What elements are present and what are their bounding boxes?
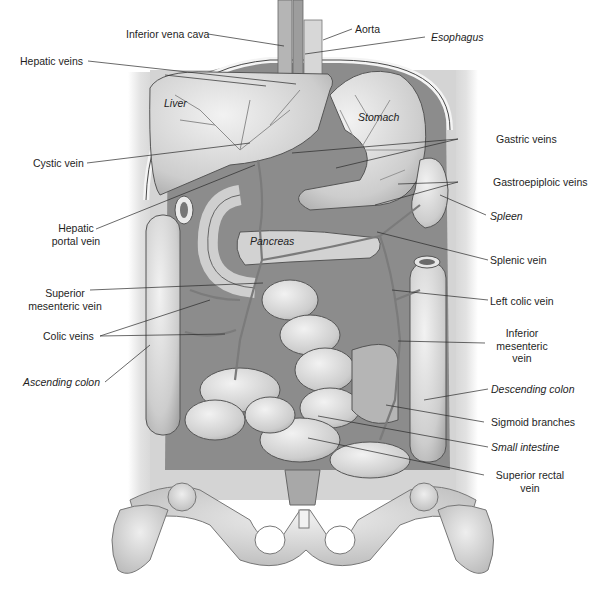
label-esophagus: Esophagus	[431, 31, 484, 44]
label-gastroepiploic-veins: Gastroepiploic veins	[493, 176, 588, 189]
descending-colon	[410, 256, 446, 462]
label-superior-mesenteric-vein-line2: mesenteric vein	[25, 300, 105, 313]
label-splenic-vein: Splenic vein	[490, 254, 547, 267]
label-small-intestine: Small intestine	[491, 441, 559, 454]
liver-label: Liver	[164, 97, 187, 109]
label-cystic-vein: Cystic vein	[33, 157, 84, 170]
label-spleen: Spleen	[490, 210, 523, 223]
label-inferior-mesenteric-vein-line1: Inferior	[487, 327, 557, 340]
label-inferior-mesenteric-vein: Inferior mesenteric vein	[487, 327, 557, 365]
label-hepatic-portal-vein-line1: Hepatic	[46, 222, 106, 235]
label-inferior-mesenteric-vein-line2: mesenteric	[487, 340, 557, 353]
pancreas-label: Pancreas	[250, 235, 294, 247]
label-superior-mesenteric-vein-line1: Superior	[25, 287, 105, 300]
label-left-colic-vein: Left colic vein	[490, 295, 554, 308]
label-superior-rectal-vein-line2: vein	[489, 482, 571, 495]
label-ascending-colon: Ascending colon	[23, 376, 100, 389]
label-sigmoid-branches: Sigmoid branches	[491, 416, 575, 429]
label-colic-veins: Colic veins	[43, 330, 94, 343]
label-inferior-vena-cava: Inferior vena cava	[126, 28, 209, 41]
stomach-label: Stomach	[358, 111, 399, 123]
label-descending-colon: Descending colon	[491, 383, 574, 396]
label-hepatic-veins: Hepatic veins	[20, 55, 83, 68]
label-superior-mesenteric-vein: Superior mesenteric vein	[25, 287, 105, 312]
label-hepatic-portal-vein: Hepatic portal vein	[46, 222, 106, 247]
rectum	[285, 470, 320, 505]
label-aorta: Aorta	[355, 23, 380, 36]
label-gastric-veins: Gastric veins	[496, 133, 557, 146]
label-superior-rectal-vein-line1: Superior rectal	[489, 469, 571, 482]
label-hepatic-portal-vein-line2: portal vein	[46, 235, 106, 248]
label-inferior-mesenteric-vein-line3: vein	[487, 352, 557, 365]
label-superior-rectal-vein: Superior rectal vein	[489, 469, 571, 494]
